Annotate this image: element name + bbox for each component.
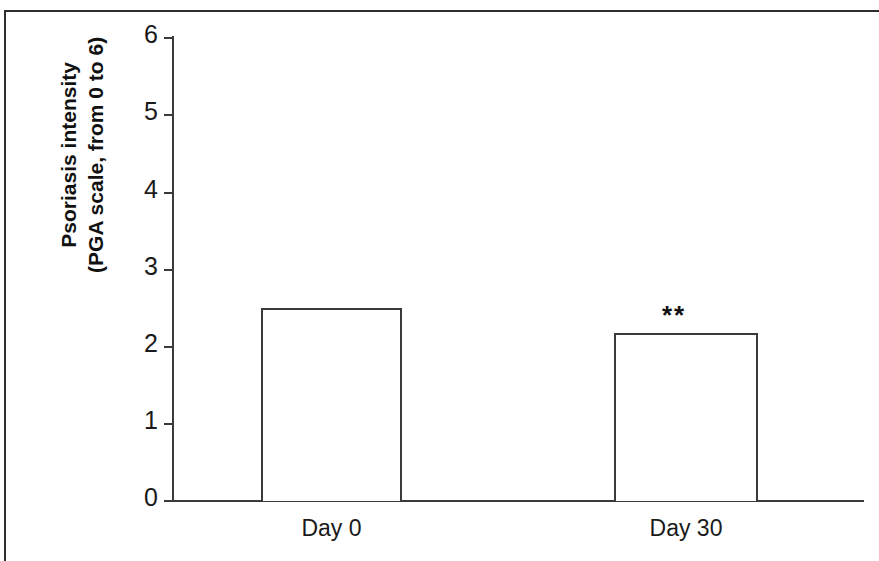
significance-annotation-day-30: ** [662,302,686,328]
y-axis-tick-0 [164,500,173,502]
figure-frame-top-border [4,10,879,12]
x-axis-category-label-day-0: Day 0 [261,517,402,540]
bar-day-0 [261,308,402,501]
figure-panel: 6 5 4 3 2 1 0 Psoriasis intensity (PGA s… [0,0,879,561]
x-axis-category-label-day-30: Day 30 [614,517,758,540]
y-axis-tick-2 [164,346,173,348]
y-axis-tick-1 [164,423,173,425]
y-axis-title-line-2: (PGA scale, from 0 to 6) [83,10,110,300]
y-axis-tick-3 [164,269,173,271]
y-axis-title-line-1: Psoriasis intensity [56,10,83,300]
y-axis-tick-4 [164,192,173,194]
y-axis-tick-5 [164,114,173,116]
y-axis-title: Psoriasis intensity (PGA scale, from 0 t… [56,10,110,300]
y-axis-tick-6 [164,37,173,39]
bar-day-30 [614,333,758,501]
figure-frame-left-border [4,10,6,561]
